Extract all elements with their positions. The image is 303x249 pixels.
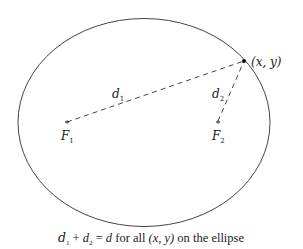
d2-label: d2	[212, 87, 224, 103]
distance-line-d2	[218, 61, 244, 121]
focus1-marker: *	[65, 118, 70, 129]
focus2-label: F2	[211, 129, 225, 145]
d1-label: d1	[112, 87, 124, 103]
focus1-label: F1	[60, 129, 74, 145]
caption: d1 + d2 = d for all (x, y) on the ellips…	[58, 230, 244, 247]
point-label: (x, y)	[251, 55, 282, 69]
ellipse-diagram: * * (x, y) F1 F2 d1 d2 d1 + d2 = d for a…	[0, 0, 303, 249]
focus2-marker: *	[216, 118, 221, 129]
ellipse-curve	[18, 19, 270, 227]
point-on-ellipse	[242, 59, 246, 63]
